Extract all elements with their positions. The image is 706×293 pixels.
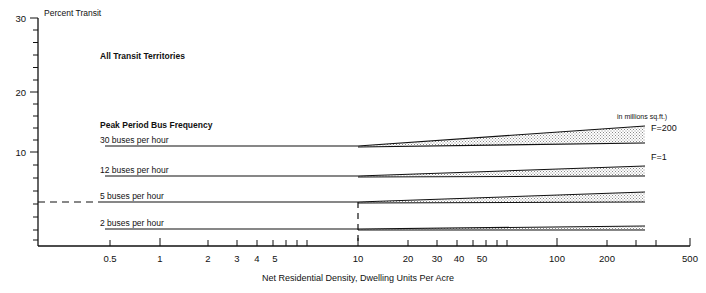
x-tick-label-2: 2 bbox=[205, 253, 210, 264]
x-tick-label-1: 1 bbox=[157, 253, 162, 264]
x-axis-title: Net Residential Density, Dwelling Units … bbox=[262, 273, 454, 283]
y-axis-tick-labels: 30 20 10 bbox=[15, 13, 26, 158]
band-2-buses bbox=[105, 226, 645, 230]
y-tick-label-20: 20 bbox=[15, 87, 26, 98]
x-tick-label-100: 100 bbox=[549, 253, 565, 264]
series-label-30-buses: 30 buses per hour bbox=[100, 135, 169, 145]
x-tick-label-50: 50 bbox=[477, 253, 488, 264]
x-tick-label-3: 3 bbox=[234, 253, 239, 264]
x-tick-label-5: 5 bbox=[272, 253, 277, 264]
series-label-2-buses: 2 buses per hour bbox=[100, 218, 164, 228]
x-tick-label-0-5: 0.5 bbox=[103, 253, 116, 264]
transit-density-chart: 30 20 10 bbox=[0, 0, 706, 293]
x-tick-label-500: 500 bbox=[682, 253, 698, 264]
x-tick-label-200: 200 bbox=[599, 253, 615, 264]
annotation-all-transit-territories: All Transit Territories bbox=[100, 51, 185, 61]
x-tick-label-40: 40 bbox=[454, 253, 465, 264]
band-12-buses bbox=[105, 166, 645, 177]
x-axis-tick-labels: 0.5 1 2 3 4 5 10 20 30 40 50 100 200 500 bbox=[103, 253, 698, 264]
series-label-5-buses: 5 buses per hour bbox=[100, 191, 164, 201]
x-tick-label-20: 20 bbox=[403, 253, 414, 264]
band-label-f-1: F=1 bbox=[651, 152, 667, 162]
x-tick-label-30: 30 bbox=[432, 253, 443, 264]
band-label-f-200: F=200 bbox=[651, 123, 677, 133]
band-5-buses bbox=[105, 192, 645, 203]
x-tick-label-10: 10 bbox=[353, 253, 364, 264]
y-tick-label-30: 30 bbox=[15, 13, 26, 24]
annotation-peak-period-bus-frequency: Peak Period Bus Frequency bbox=[100, 120, 213, 130]
y-tick-label-10: 10 bbox=[15, 147, 26, 158]
y-axis-ticks bbox=[30, 18, 38, 240]
y-axis-title: Percent Transit bbox=[44, 8, 102, 18]
series-label-12-buses: 12 buses per hour bbox=[100, 165, 169, 175]
x-axis-ticks bbox=[110, 238, 690, 246]
chart-canvas: 30 20 10 bbox=[0, 0, 706, 293]
annotation-floorspace-units: in millions sq.ft.) bbox=[617, 113, 667, 121]
x-tick-label-4: 4 bbox=[254, 253, 259, 264]
